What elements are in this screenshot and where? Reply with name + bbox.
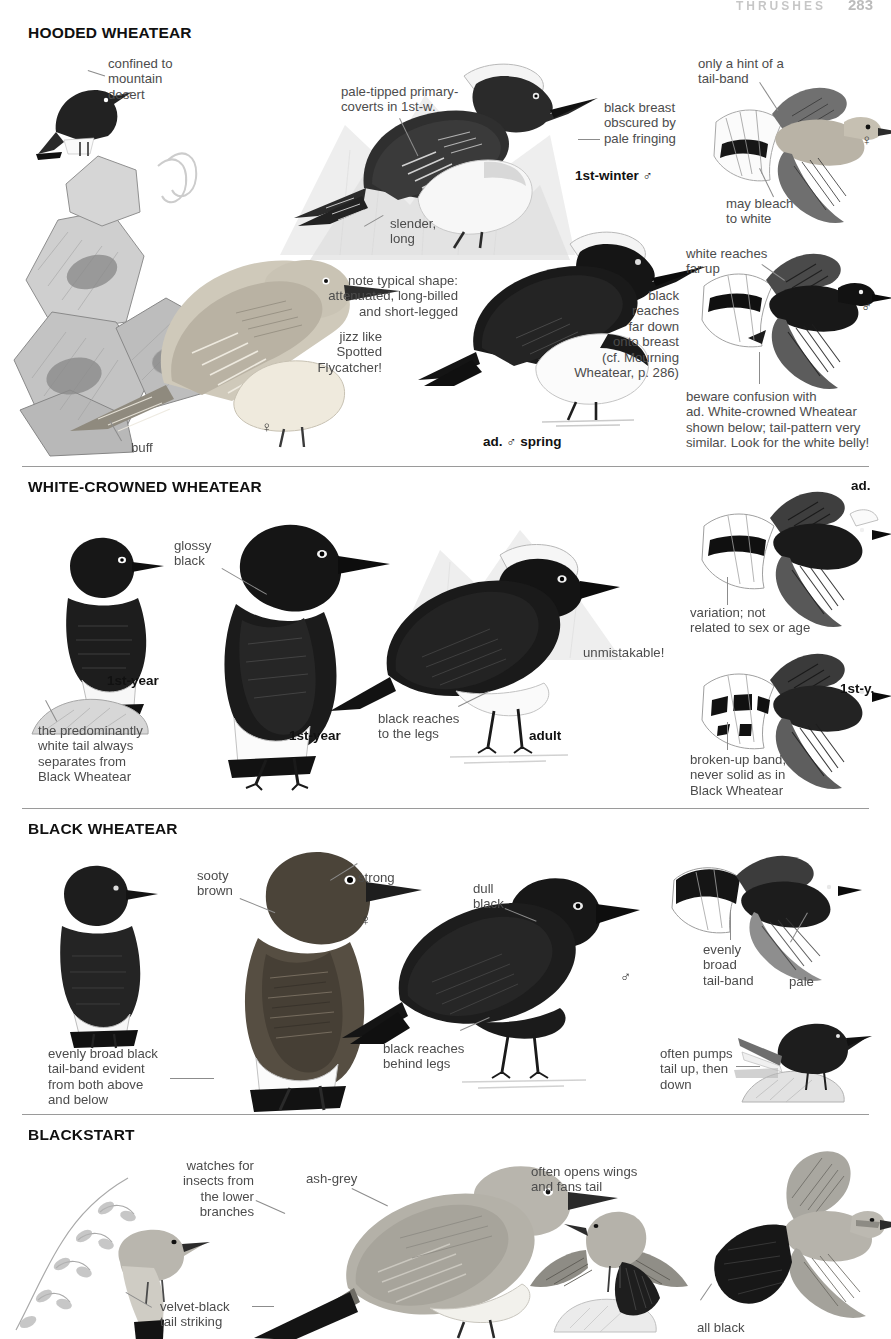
section-title-blackstart: BLACKSTART bbox=[28, 1126, 135, 1144]
note-watches-for-insects: watches for insects from the lower branc… bbox=[164, 1158, 254, 1220]
field-guide-page: THRUSHES 283 HOODED WHEATEAR bbox=[0, 0, 891, 1339]
note-velvet-black-tail: velvet-black tail striking bbox=[160, 1299, 230, 1330]
note-ash-grey: ash-grey bbox=[306, 1171, 357, 1186]
leader-velvet-black-right bbox=[252, 1306, 274, 1307]
section-blackstart: BLACKSTART bbox=[0, 0, 891, 1339]
note-all-black: all black bbox=[697, 1320, 745, 1335]
note-often-opens-wings: often opens wings and fans tail bbox=[531, 1164, 637, 1195]
bird-blackstart-in-flight bbox=[680, 1150, 890, 1339]
